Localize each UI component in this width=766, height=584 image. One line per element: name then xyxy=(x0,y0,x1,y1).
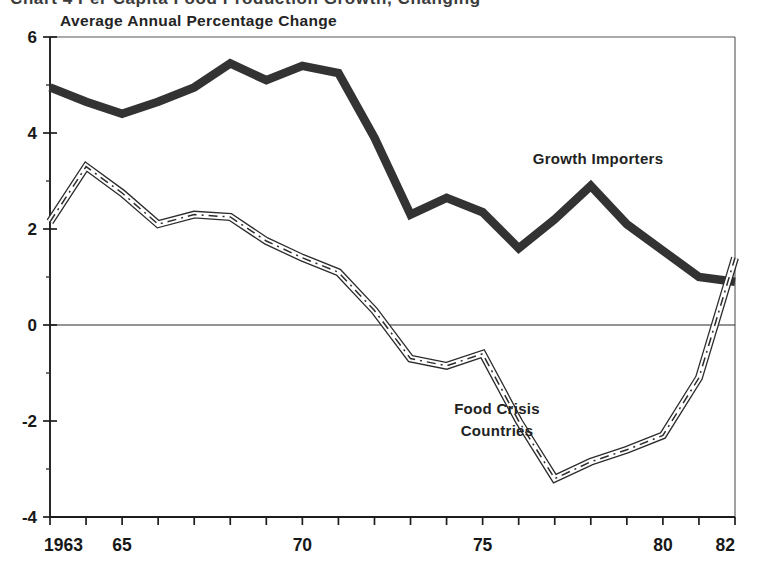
x-axis-ticks xyxy=(50,517,735,525)
series-line-outline xyxy=(50,167,735,479)
y-axis-tick-labels: 6420-2-4 xyxy=(22,28,38,527)
x-axis-tick-labels: 19636570758082 xyxy=(44,535,735,555)
series-growth-importers xyxy=(50,63,735,281)
x-tick-label: 1963 xyxy=(44,535,83,555)
y-tick-label: -2 xyxy=(22,412,37,431)
series-line xyxy=(50,63,735,281)
y-tick-label: 4 xyxy=(28,124,38,143)
x-tick-label: 65 xyxy=(112,535,132,555)
series-label-food-crisis-countries: Countries xyxy=(461,422,534,439)
x-tick-label: 80 xyxy=(653,535,673,555)
chart-figure: Chart 4 Per Capita Food Production Growt… xyxy=(0,0,766,584)
series-food-crisis-countries xyxy=(50,167,735,479)
y-tick-label: 6 xyxy=(28,28,37,47)
series-label-growth-importers: Growth Importers xyxy=(533,150,664,167)
x-tick-label: 82 xyxy=(716,535,736,555)
y-tick-label: -4 xyxy=(22,508,38,527)
series-annotations: Growth ImportersFood CrisisCountries xyxy=(454,150,663,439)
y-tick-label: 0 xyxy=(28,316,37,335)
series-label-food-crisis-countries: Food Crisis xyxy=(454,400,540,417)
x-tick-label: 70 xyxy=(293,535,313,555)
data-series-group xyxy=(50,63,735,478)
series-line-fill xyxy=(50,167,735,479)
x-tick-label: 75 xyxy=(473,535,493,555)
y-tick-label: 2 xyxy=(28,220,37,239)
series-line-dashes xyxy=(50,167,735,479)
line-chart-plot: 6420-2-4 19636570758082 Growth Importers… xyxy=(0,0,766,584)
